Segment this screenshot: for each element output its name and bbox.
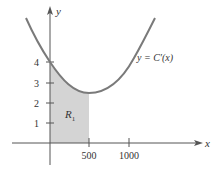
y-tick-label-2: 2 [34, 98, 39, 109]
curve-label: y = C′(x) [136, 52, 174, 64]
region-label-sub: 1 [72, 115, 76, 123]
x-axis-label: x [204, 137, 210, 149]
shaded-region-r1 [50, 62, 89, 143]
y-axis-label: y [55, 5, 61, 17]
y-tick-label-4: 4 [34, 57, 39, 68]
curve-c-prime [26, 18, 155, 93]
y-tick-label-1: 1 [34, 118, 39, 129]
y-tick-label-3: 3 [34, 78, 39, 89]
x-tick-label-1000: 1000 [119, 150, 139, 161]
x-tick-label-500: 500 [82, 150, 97, 161]
chart: 4 3 2 1 500 1000 y x y = C′(x) R1 [0, 0, 223, 173]
